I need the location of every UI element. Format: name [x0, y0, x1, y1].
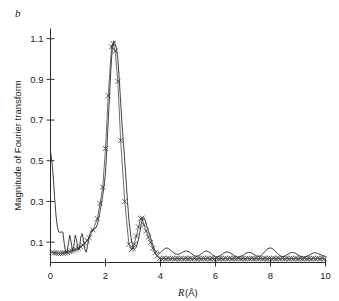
x-tick-label: 10 — [320, 270, 331, 281]
x-tick-label: 0 — [48, 270, 53, 281]
x-tick-label: 8 — [268, 270, 273, 281]
x-axis-title-unit: (Å) — [185, 287, 198, 298]
y-tick-label: 0.7 — [30, 114, 43, 125]
y-axis-tick-labels: 0.10.30.50.70.91.1 — [30, 33, 43, 247]
axes-group — [47, 29, 326, 267]
cross-marker-set — [49, 41, 327, 261]
x-axis-title: R (Å) — [177, 287, 198, 298]
series-group — [49, 41, 327, 262]
x-axis-title-symbol: R — [177, 287, 185, 298]
x-tick-label: 2 — [103, 270, 108, 281]
y-tick-label: 0.3 — [30, 196, 43, 207]
y-tick-label: 0.1 — [30, 237, 43, 248]
fit-curve — [52, 44, 325, 259]
x-tick-label: 4 — [158, 270, 163, 281]
y-tick-label: 0.5 — [30, 155, 43, 166]
series-fit-markers — [49, 41, 327, 261]
x-axis-tick-labels: 0246810 — [48, 270, 331, 281]
x-tick-label: 6 — [213, 270, 218, 281]
y-tick-label: 0.9 — [30, 74, 43, 85]
figure-panel-b: b 0.10.30.50.70.91.1 0246810 Magnitude o… — [0, 0, 339, 301]
y-tick-label: 1.1 — [30, 33, 43, 44]
y-axis-title: Magnitude of Fourier transform — [12, 80, 23, 211]
series-experimental-line — [51, 41, 326, 258]
fourier-transform-chart: 0.10.30.50.70.91.1 0246810 Magnitude of … — [0, 0, 339, 301]
